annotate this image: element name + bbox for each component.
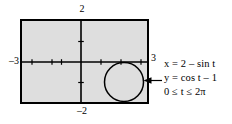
axis-label-x-max: 3 (151, 52, 165, 63)
equation-line-domain: 0 ≤ t ≤ 2π (164, 85, 232, 99)
x-axis (22, 59, 147, 65)
equation-line-y: y = cos t – 1 (164, 71, 232, 85)
equation-annotation: x = 2 – sin t y = cos t – 1 0 ≤ t ≤ 2π (164, 57, 232, 99)
axis-label-y-max: 2 (74, 3, 90, 14)
equation-line-x: x = 2 – sin t (164, 57, 232, 71)
parametric-curve (105, 63, 144, 102)
annotation-leader-arrow (144, 77, 163, 84)
axis-label-x-min: –3 (2, 55, 19, 66)
axis-label-y-min: –2 (74, 105, 90, 116)
parametric-graph-figure: 2 –2 –3 3 x = 2 – sin t y = cos t – 1 0 … (0, 0, 232, 124)
